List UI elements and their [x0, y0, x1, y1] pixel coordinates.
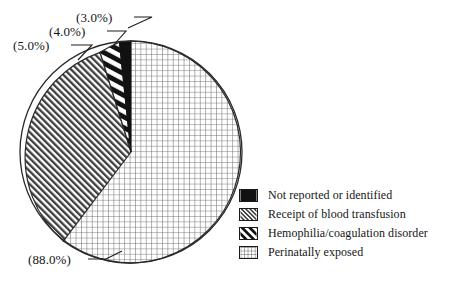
- legend-item-not-reported-or-identified: Not reported or identified: [239, 187, 447, 204]
- legend-item-receipt-of-blood-transfusion: Receipt of blood transfusion: [239, 206, 447, 223]
- legend-swatch-solid-black-icon: [239, 189, 258, 202]
- data-label-88-percent: (88.0%): [28, 252, 71, 268]
- legend-swatch-crosshatch-grid-icon: [239, 246, 258, 259]
- leader-line-3-percent: [128, 17, 152, 28]
- data-label-4-percent: (4.0%): [49, 24, 85, 40]
- legend-label-not-reported-or-identified: Not reported or identified: [268, 188, 392, 203]
- legend-swatch-fine-diagonal-stripes-icon: [239, 208, 258, 221]
- legend-item-perinatally-exposed: Perinatally exposed: [239, 244, 447, 261]
- chart-legend: Not reported or identified Receipt of bl…: [239, 187, 447, 263]
- legend-item-hemophilia-coagulation-disorder: Hemophilia/coagulation disorder: [239, 225, 447, 242]
- legend-label-receipt-of-blood-transfusion: Receipt of blood transfusion: [268, 207, 406, 222]
- data-label-5-percent: (5.0%): [13, 38, 49, 54]
- legend-label-perinatally-exposed: Perinatally exposed: [268, 245, 363, 260]
- legend-label-hemophilia-coagulation-disorder: Hemophilia/coagulation disorder: [268, 226, 428, 241]
- legend-swatch-bold-diagonal-stripes-icon: [239, 227, 258, 240]
- pie-chart-figure: (3.0%) (4.0%) (5.0%) (88.0%) Not reporte…: [0, 0, 450, 290]
